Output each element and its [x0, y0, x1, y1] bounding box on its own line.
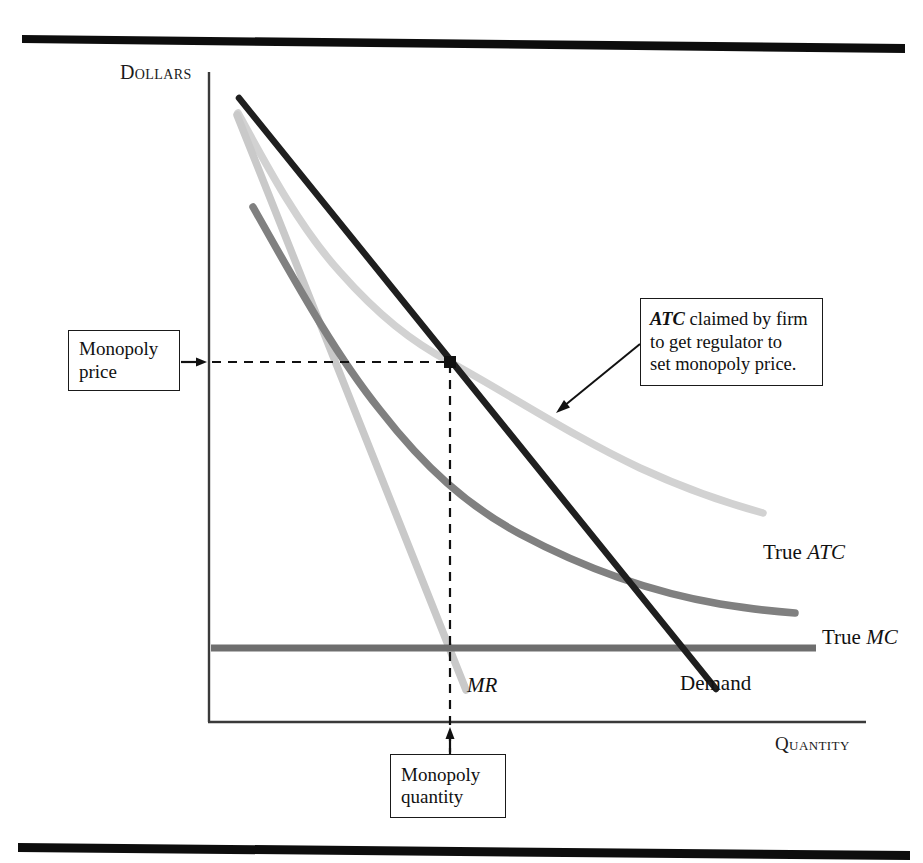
mr-line	[237, 115, 466, 690]
curve-label-true-atc-line2: ATC	[807, 540, 845, 564]
curve-label-demand: Demand	[680, 672, 751, 695]
callout-atc-claim-emph: ATC	[650, 309, 685, 329]
callout-atc-claim-line1: ATC claimed by firm	[650, 308, 813, 331]
callout-monopoly-price: Monopoly price	[68, 330, 180, 391]
atc-claim-leader-shaft	[564, 344, 640, 406]
callout-atc-claim-line3: set monopoly price.	[650, 353, 813, 376]
curve-label-true-atc-line1: True	[763, 540, 802, 564]
curve-label-true-mc-line2: MC	[866, 625, 898, 649]
curve-label-true-atc: True ATC	[763, 541, 845, 564]
curve-label-mr: MR	[467, 674, 497, 697]
callout-atc-claim-line2: to get regulator to	[650, 331, 813, 354]
bottom-rule	[18, 843, 910, 860]
callout-atc-claim-rest: claimed by firm	[685, 309, 808, 329]
callout-monopoly-quantity: Monopoly quantity	[390, 754, 506, 818]
top-rule	[22, 35, 905, 53]
x-axis-label: Quantity	[775, 733, 850, 755]
equilibrium-point-marker	[444, 356, 456, 368]
curve-label-true-mc-line1: True	[822, 625, 861, 649]
callout-atc-claim: ATC claimed by firm to get regulator to …	[640, 298, 823, 386]
callout-monopoly-price-line1: Monopoly	[79, 338, 169, 360]
monopoly-price-arrow-head	[196, 358, 207, 367]
callout-monopoly-price-line2: price	[79, 361, 169, 383]
callout-monopoly-quantity-line2: quantity	[401, 786, 495, 808]
callout-monopoly-quantity-line1: Monopoly	[401, 764, 495, 786]
demand-line	[239, 98, 716, 689]
y-axis-label: Dollars	[120, 61, 192, 84]
monopoly-quantity-arrow-head	[446, 727, 455, 739]
curve-label-true-mc: True MC	[822, 626, 898, 649]
